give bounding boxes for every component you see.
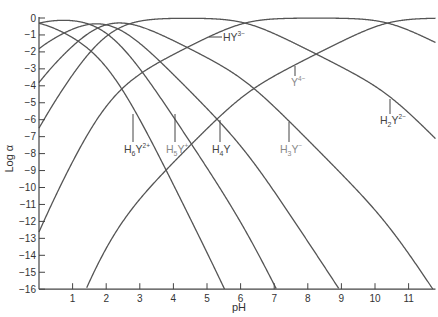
x-tick-label: 3 [137, 293, 143, 304]
x-axis-label: pH [232, 301, 246, 313]
curve-label: HY3− [223, 30, 245, 43]
x-tick-label: 5 [204, 293, 210, 304]
y-tick-label: −10 [19, 182, 36, 193]
speciation-chart: 0−1−2−3−4−5−6−7−8−9−10−11−12−13−14−15−16… [0, 0, 438, 317]
y-tick-label: −1 [25, 29, 37, 40]
curve-H3Y- [39, 23, 433, 289]
y-tick-label: −5 [25, 97, 37, 108]
y-tick-label: −15 [19, 267, 36, 278]
curve-labels: H6Y2+H5Y+H4YH3Y−Y4−H2Y2−HY3− [124, 30, 406, 157]
y-tick-label: −7 [25, 131, 37, 142]
y-tick-label: −4 [25, 80, 37, 91]
y-tick-label: −14 [19, 250, 36, 261]
y-tick-label: −6 [25, 114, 37, 125]
x-tick-label: 1 [70, 293, 76, 304]
x-tick-label: 8 [305, 293, 311, 304]
y-tick-label: −11 [20, 199, 37, 210]
y-axis-label: Log α [3, 144, 15, 172]
x-tick-label: 9 [339, 293, 345, 304]
x-tick-label: 10 [369, 293, 381, 304]
y-tick-label: −8 [25, 148, 37, 159]
x-tick-label: 7 [271, 293, 277, 304]
y-tick-label: −3 [25, 63, 37, 74]
curve-label: H6Y2+ [124, 142, 150, 157]
curve-label: H5Y+ [166, 142, 189, 157]
y-tick-label: −12 [19, 216, 36, 227]
chart-canvas: 0−1−2−3−4−5−6−7−8−9−10−11−12−13−14−15−16… [0, 0, 438, 317]
x-tick-label: 4 [171, 293, 177, 304]
y-tick-label: 0 [30, 13, 36, 24]
y-tick-label: −9 [25, 165, 37, 176]
curve-label: Y4− [291, 75, 306, 88]
y-tick-label: −13 [19, 233, 36, 244]
x-tick-label: 2 [103, 293, 109, 304]
curve-label: H3Y− [280, 142, 303, 157]
curves [39, 18, 435, 289]
curve-HY3- [39, 18, 435, 232]
curve-label: H2Y2− [380, 113, 406, 128]
axes: 0−1−2−3−4−5−6−7−8−9−10−11−12−13−14−15−16… [3, 13, 435, 314]
x-tick-label: 11 [403, 293, 414, 304]
y-tick-label: −2 [25, 46, 37, 57]
curve-label: H4Y [212, 143, 231, 157]
curve-H4Y [39, 24, 339, 289]
y-tick-label: −16 [19, 284, 36, 295]
